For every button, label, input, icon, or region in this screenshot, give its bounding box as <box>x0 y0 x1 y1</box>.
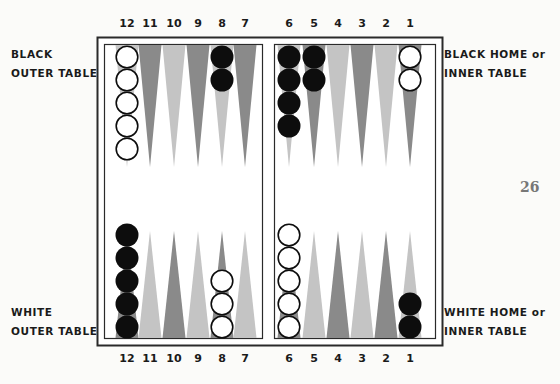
checker-black-bottom-12 <box>116 293 139 316</box>
checker-black-top-5 <box>303 69 326 92</box>
checker-white-bottom-6 <box>278 224 300 246</box>
checker-white-bottom-8 <box>211 293 233 315</box>
checker-black-top-6 <box>278 92 301 115</box>
checker-black-bottom-12 <box>116 247 139 270</box>
checker-black-top-6 <box>278 46 301 69</box>
checker-black-bottom-1 <box>399 316 422 339</box>
checker-white-bottom-6 <box>278 316 300 338</box>
checker-black-top-6 <box>278 115 301 138</box>
checker-white-top-12 <box>116 69 138 91</box>
checker-white-top-1 <box>399 46 421 68</box>
checker-black-top-6 <box>278 69 301 92</box>
checker-white-bottom-6 <box>278 293 300 315</box>
checker-white-bottom-8 <box>211 270 233 292</box>
checker-white-bottom-6 <box>278 270 300 292</box>
checker-white-bottom-6 <box>278 247 300 269</box>
backgammon-board <box>0 0 560 384</box>
checker-black-bottom-12 <box>116 316 139 339</box>
checker-white-top-12 <box>116 138 138 160</box>
checker-black-bottom-12 <box>116 270 139 293</box>
checker-white-bottom-8 <box>211 316 233 338</box>
checker-white-top-12 <box>116 92 138 114</box>
checker-white-top-1 <box>399 69 421 91</box>
checker-white-top-12 <box>116 46 138 68</box>
checker-black-bottom-12 <box>116 224 139 247</box>
checker-black-top-8 <box>211 46 234 69</box>
checker-black-bottom-1 <box>399 293 422 316</box>
checker-white-top-12 <box>116 115 138 137</box>
checker-black-top-8 <box>211 69 234 92</box>
checker-black-top-5 <box>303 46 326 69</box>
